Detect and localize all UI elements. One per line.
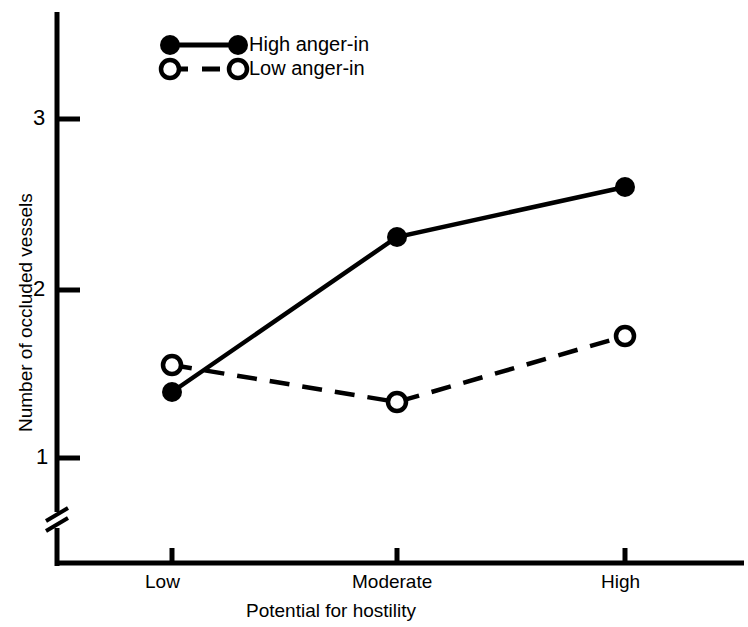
legend-marker-low-anger-in: [161, 60, 247, 78]
series-high-anger-in: [162, 177, 635, 402]
data-point-low-moderate: [388, 393, 406, 411]
chart-canvas: [0, 0, 748, 627]
x-tick-label-high: High: [601, 572, 640, 591]
x-axis-title: Potential for hostility: [246, 601, 416, 620]
legend-label-high-anger-in: High anger-in: [249, 34, 369, 54]
legend-label-low-anger-in: Low anger-in: [249, 58, 365, 78]
y-tick-label-1: 1: [36, 446, 48, 468]
series-high-anger-in-line: [172, 187, 625, 392]
data-point-high-high: [615, 177, 635, 197]
data-point-high-moderate: [387, 227, 407, 247]
x-tick-label-low: Low: [145, 572, 180, 591]
y-tick-marks: [57, 119, 80, 458]
line-chart-figure: High anger-in Low anger-in 3 2 1 Low Mod…: [0, 0, 748, 627]
y-axis-title: Number of occluded vessels: [16, 193, 35, 432]
x-tick-label-moderate: Moderate: [352, 572, 432, 591]
series-low-anger-in: [163, 327, 634, 411]
data-point-low-high: [616, 327, 634, 345]
y-tick-label-3: 3: [33, 107, 45, 129]
legend-marker-high-anger-in: [160, 35, 248, 55]
data-point-low-low: [163, 356, 181, 374]
data-point-high-low: [162, 382, 182, 402]
